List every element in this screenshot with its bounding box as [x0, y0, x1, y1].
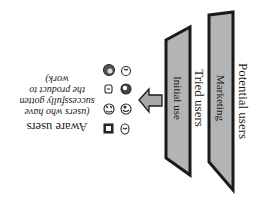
user-icons-grid	[104, 65, 132, 135]
potential-users-label: Potential users	[236, 63, 251, 139]
aware-users-caption-line-3: the product to	[29, 85, 85, 96]
user-face-icon	[122, 67, 131, 76]
aware-users-caption-line-2: successfully gotten	[19, 96, 94, 107]
tried-users-label: Tried users	[192, 69, 207, 127]
user-face-icon	[105, 85, 112, 93]
block-arrow-icon	[139, 89, 162, 112]
user-face-icon	[104, 124, 113, 133]
user-face-icon	[121, 84, 131, 94]
user-face-icon	[104, 65, 115, 76]
initial-use-label: Initial use	[172, 76, 184, 120]
user-face-icon	[121, 104, 131, 114]
marketing-label: Marketing	[215, 75, 227, 121]
funnel-diagram: Potential users Marketing Tried users In…	[0, 0, 257, 204]
user-face-icon	[104, 104, 114, 114]
aware-users-title: Aware users	[26, 120, 87, 134]
aware-users-block: Aware users (users who have successfully…	[19, 73, 94, 134]
user-face-icon	[121, 124, 129, 134]
aware-users-caption-line-4: work)	[45, 73, 69, 85]
